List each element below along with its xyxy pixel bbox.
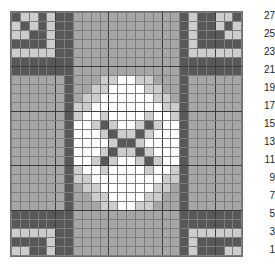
pattern-cell[interactable]: [215, 103, 224, 112]
pattern-cell[interactable]: [224, 184, 233, 193]
pattern-cell[interactable]: [144, 247, 153, 256]
pattern-cell[interactable]: [100, 67, 109, 76]
pattern-cell[interactable]: [100, 184, 109, 193]
pattern-cell[interactable]: [144, 58, 153, 67]
pattern-cell[interactable]: [189, 139, 198, 148]
pattern-cell[interactable]: [198, 139, 207, 148]
pattern-cell[interactable]: [180, 166, 189, 175]
pattern-cell[interactable]: [180, 58, 189, 67]
pattern-cell[interactable]: [162, 247, 171, 256]
pattern-cell[interactable]: [47, 184, 56, 193]
pattern-cell[interactable]: [12, 85, 21, 94]
pattern-cell[interactable]: [56, 121, 65, 130]
pattern-cell[interactable]: [189, 85, 198, 94]
pattern-cell[interactable]: [206, 31, 215, 40]
pattern-cell[interactable]: [189, 211, 198, 220]
pattern-cell[interactable]: [20, 49, 29, 58]
pattern-cell[interactable]: [189, 220, 198, 229]
pattern-cell[interactable]: [189, 247, 198, 256]
pattern-cell[interactable]: [74, 184, 83, 193]
pattern-cell[interactable]: [153, 76, 162, 85]
pattern-cell[interactable]: [162, 148, 171, 157]
pattern-cell[interactable]: [20, 211, 29, 220]
pattern-cell[interactable]: [127, 157, 136, 166]
pattern-cell[interactable]: [136, 166, 145, 175]
pattern-cell[interactable]: [206, 112, 215, 121]
pattern-cell[interactable]: [171, 58, 180, 67]
pattern-cell[interactable]: [171, 67, 180, 76]
pattern-cell[interactable]: [38, 22, 47, 31]
pattern-cell[interactable]: [20, 31, 29, 40]
pattern-cell[interactable]: [224, 193, 233, 202]
pattern-cell[interactable]: [38, 76, 47, 85]
pattern-cell[interactable]: [189, 22, 198, 31]
pattern-cell[interactable]: [233, 184, 242, 193]
pattern-cell[interactable]: [136, 76, 145, 85]
pattern-cell[interactable]: [171, 238, 180, 247]
pattern-cell[interactable]: [29, 130, 38, 139]
pattern-cell[interactable]: [224, 76, 233, 85]
pattern-cell[interactable]: [189, 31, 198, 40]
pattern-cell[interactable]: [56, 148, 65, 157]
pattern-cell[interactable]: [65, 76, 74, 85]
pattern-cell[interactable]: [118, 166, 127, 175]
pattern-cell[interactable]: [29, 103, 38, 112]
pattern-cell[interactable]: [233, 103, 242, 112]
pattern-cell[interactable]: [180, 67, 189, 76]
pattern-cell[interactable]: [180, 193, 189, 202]
pattern-cell[interactable]: [153, 202, 162, 211]
pattern-cell[interactable]: [180, 40, 189, 49]
pattern-cell[interactable]: [171, 229, 180, 238]
pattern-cell[interactable]: [12, 49, 21, 58]
pattern-cell[interactable]: [162, 130, 171, 139]
pattern-cell[interactable]: [215, 22, 224, 31]
pattern-cell[interactable]: [180, 94, 189, 103]
pattern-cell[interactable]: [29, 184, 38, 193]
pattern-cell[interactable]: [56, 103, 65, 112]
pattern-cell[interactable]: [65, 112, 74, 121]
pattern-cell[interactable]: [82, 49, 91, 58]
pattern-cell[interactable]: [100, 229, 109, 238]
pattern-cell[interactable]: [65, 157, 74, 166]
pattern-cell[interactable]: [109, 22, 118, 31]
pattern-cell[interactable]: [215, 166, 224, 175]
pattern-cell[interactable]: [189, 103, 198, 112]
pattern-cell[interactable]: [47, 130, 56, 139]
pattern-cell[interactable]: [74, 76, 83, 85]
pattern-cell[interactable]: [82, 157, 91, 166]
pattern-cell[interactable]: [144, 49, 153, 58]
pattern-cell[interactable]: [29, 58, 38, 67]
pattern-cell[interactable]: [171, 130, 180, 139]
pattern-cell[interactable]: [180, 238, 189, 247]
pattern-cell[interactable]: [82, 175, 91, 184]
pattern-cell[interactable]: [74, 247, 83, 256]
pattern-cell[interactable]: [206, 13, 215, 22]
pattern-cell[interactable]: [38, 202, 47, 211]
pattern-cell[interactable]: [118, 148, 127, 157]
pattern-cell[interactable]: [171, 247, 180, 256]
pattern-cell[interactable]: [162, 211, 171, 220]
pattern-cell[interactable]: [91, 202, 100, 211]
pattern-cell[interactable]: [29, 175, 38, 184]
pattern-cell[interactable]: [180, 184, 189, 193]
pattern-cell[interactable]: [180, 247, 189, 256]
pattern-cell[interactable]: [118, 139, 127, 148]
pattern-cell[interactable]: [91, 67, 100, 76]
pattern-cell[interactable]: [56, 13, 65, 22]
pattern-cell[interactable]: [82, 67, 91, 76]
pattern-cell[interactable]: [162, 139, 171, 148]
pattern-cell[interactable]: [20, 238, 29, 247]
pattern-cell[interactable]: [118, 121, 127, 130]
pattern-cell[interactable]: [118, 94, 127, 103]
pattern-cell[interactable]: [109, 229, 118, 238]
pattern-cell[interactable]: [233, 148, 242, 157]
pattern-cell[interactable]: [29, 166, 38, 175]
pattern-cell[interactable]: [153, 58, 162, 67]
pattern-cell[interactable]: [100, 22, 109, 31]
pattern-cell[interactable]: [109, 40, 118, 49]
pattern-cell[interactable]: [215, 49, 224, 58]
pattern-cell[interactable]: [82, 103, 91, 112]
pattern-cell[interactable]: [38, 175, 47, 184]
pattern-cell[interactable]: [38, 103, 47, 112]
pattern-cell[interactable]: [162, 175, 171, 184]
